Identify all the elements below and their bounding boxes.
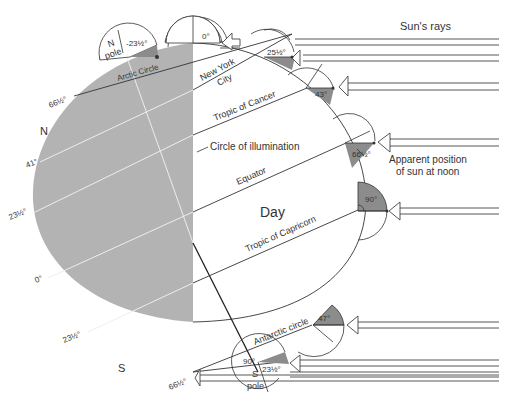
lat-0-label: 0° xyxy=(33,274,43,285)
lat-66s-label: 66½° xyxy=(167,376,188,391)
lat-23n-label: 23½° xyxy=(7,206,28,221)
antarctic-circle-label: Antarctic circle xyxy=(252,316,310,347)
north-label: N xyxy=(40,125,48,137)
antarctic-angle-label: 47° xyxy=(318,314,330,323)
equator-protractor xyxy=(333,113,375,141)
tropic-capricorn-line xyxy=(193,210,358,283)
tropic-cancer-line xyxy=(193,88,307,135)
antarctic-protractor xyxy=(298,325,344,357)
capricorn-angle-label: 90° xyxy=(365,195,377,204)
s-pole-label-2: pole xyxy=(247,381,264,391)
nyc-angle-wedge xyxy=(264,57,295,70)
cancer-protractor xyxy=(288,68,334,90)
earth-axis-day xyxy=(193,243,258,372)
arctic-noon-angle: 0° xyxy=(202,32,210,41)
spole-angle-wedge xyxy=(258,352,289,364)
axis-angle-label: 90° xyxy=(243,357,255,366)
day-label: Day xyxy=(260,204,285,220)
circle-illumination-label: Circle of illumination xyxy=(210,141,299,152)
diagram-canvas: Sun's rays Day Circle of illumination Ap… xyxy=(0,0,509,403)
equator-angle-label: 66½° xyxy=(352,150,371,159)
npole-angle-label: -23½° xyxy=(126,39,147,48)
tropic-cancer-label: Tropic of Cancer xyxy=(212,89,277,123)
equator-line xyxy=(193,143,346,212)
capricorn-protractor xyxy=(358,211,387,240)
nyc-angle-label: 25½° xyxy=(267,48,286,57)
south-label: S xyxy=(118,362,125,374)
solar-angle-diagram: Sun's rays Day Circle of illumination Ap… xyxy=(0,0,509,403)
s-pole-label-1: S xyxy=(252,369,258,379)
apparent-position-line1: Apparent position xyxy=(389,154,467,165)
spole-angle-label: 23½° xyxy=(262,365,281,374)
lat-23s-label: 23½° xyxy=(61,329,82,344)
apparent-position-line2: of sun at noon xyxy=(396,166,459,177)
sun-rays-label: Sun's rays xyxy=(400,20,452,32)
lat-66n-label: 66½° xyxy=(47,94,68,109)
equator-label: Equator xyxy=(235,165,268,187)
sun-rays xyxy=(200,39,499,381)
cancer-angle-label: 43° xyxy=(315,90,327,99)
circle-illumination-pointer xyxy=(197,147,208,152)
